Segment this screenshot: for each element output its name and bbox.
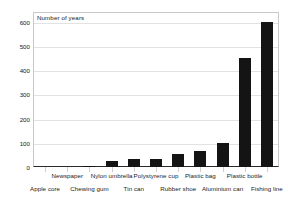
x-axis-tick-labels: Apple coreNewspaperChewing gumNylon umbr… — [0, 167, 288, 209]
y-axis-tick-label: 500 — [0, 42, 30, 49]
x-axis-tick — [45, 167, 46, 172]
x-axis-tick-label: Tin can — [124, 185, 144, 192]
x-axis-tick-label: Aluminium can — [202, 185, 243, 192]
bar-slot — [234, 12, 256, 167]
x-axis-tick-label: Plastic bottle — [227, 172, 263, 179]
x-axis-tick — [223, 167, 224, 172]
bar[interactable] — [150, 159, 162, 167]
y-axis-tick-label: 300 — [0, 91, 30, 98]
bar-slot — [101, 12, 123, 167]
x-axis-tick-label: Plastic bag — [185, 172, 216, 179]
bar-slot — [145, 12, 167, 167]
bar[interactable] — [194, 151, 206, 167]
x-axis-tick-label: Rubber shoe — [160, 185, 196, 192]
bar[interactable] — [128, 159, 140, 167]
x-axis-tick — [178, 167, 179, 172]
y-axis-tick-label: 400 — [0, 67, 30, 74]
x-axis-tick-label: Polystyrene cup — [134, 172, 179, 179]
x-axis-tick-label: Nylon umbrella — [91, 172, 133, 179]
bar[interactable] — [172, 154, 184, 167]
x-axis-tick-label: Newspaper — [51, 172, 83, 179]
bars-layer — [34, 12, 278, 167]
x-axis-tick — [267, 167, 268, 172]
x-axis-tick-label: Chewing gum — [70, 185, 108, 192]
bar-slot — [167, 12, 189, 167]
bar-chart: Number of years 0100200300400500600 Appl… — [0, 0, 288, 209]
bar-slot — [78, 12, 100, 167]
bar-slot — [34, 12, 56, 167]
bar[interactable] — [261, 22, 273, 167]
y-axis-tick-label: 200 — [0, 115, 30, 122]
x-axis-tick-label: Fishing line — [251, 185, 283, 192]
bar-slot — [256, 12, 278, 167]
bar[interactable] — [239, 58, 251, 167]
bar-slot — [211, 12, 233, 167]
bar-slot — [123, 12, 145, 167]
y-axis-tick-label: 600 — [0, 18, 30, 25]
bar-slot — [56, 12, 78, 167]
x-axis-tick-label: Apple core — [30, 185, 60, 192]
y-axis-tick-label: 100 — [0, 139, 30, 146]
bar[interactable] — [217, 143, 229, 167]
bar-slot — [189, 12, 211, 167]
